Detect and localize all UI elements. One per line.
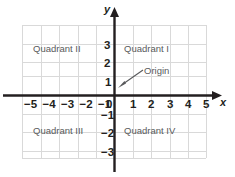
y-tick-1: 1: [105, 77, 111, 89]
origin-leader-line: [118, 70, 143, 88]
x-tick-1: 1: [130, 99, 136, 111]
x-tick--4: −4: [43, 99, 56, 111]
y-tick--1: −1: [101, 110, 114, 122]
quadrant-4-label: Quadrant IV: [124, 126, 175, 136]
quadrant-1-label: Quadrant I: [124, 44, 169, 54]
x-tick--2: −2: [80, 99, 93, 111]
y-tick--2: −2: [101, 128, 114, 140]
y-tick-3: 3: [104, 40, 110, 52]
x-tick-3: 3: [167, 99, 173, 111]
y-tick--3: −3: [101, 147, 114, 159]
y-axis-label: y: [104, 4, 110, 15]
coordinate-plane-figure: Quadrant II Quadrant I Quadrant III Quad…: [0, 0, 235, 177]
y-tick-2: 2: [104, 58, 110, 70]
x-tick-5: 5: [203, 99, 209, 111]
x-tick--5: −5: [24, 99, 37, 111]
quadrant-3-label: Quadrant III: [33, 126, 83, 136]
x-tick--3: −3: [61, 99, 74, 111]
x-tick-2: 2: [148, 99, 154, 111]
origin-label: Origin: [144, 66, 169, 76]
x-tick-4: 4: [185, 99, 191, 111]
x-axis-label: x: [220, 97, 226, 108]
coordinate-plane-graphics: [0, 0, 235, 177]
quadrant-2-label: Quadrant II: [33, 44, 81, 54]
